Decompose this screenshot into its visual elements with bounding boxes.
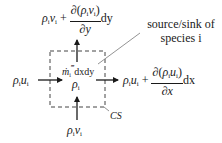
control-surface-label: CS: [110, 110, 122, 122]
area-element: dxdy: [74, 66, 94, 77]
species-subscript: i: [137, 80, 139, 88]
bottom-flux-expression: ρivi: [67, 124, 82, 140]
paren-close: ): [178, 65, 182, 79]
plus-sign: +: [60, 11, 67, 25]
partial-derivative-y: ∂(ρivi) ∂y: [70, 4, 101, 35]
species-subscript: i: [78, 84, 80, 92]
annotation-line-1: source/sink of: [140, 17, 222, 31]
species-subscript: i: [27, 80, 29, 88]
paren-close: ): [96, 3, 100, 17]
source-sink-annotation: source/sink of species i: [140, 17, 222, 45]
species-density-center: ρi: [72, 78, 80, 94]
annotation-leader-line: [98, 33, 140, 64]
fraction-numerator: ∂(ρiui): [151, 66, 183, 84]
species-subscript: i: [80, 130, 82, 138]
annotation-line-2: species i: [140, 31, 222, 45]
fraction-denominator: ∂x: [151, 84, 183, 97]
cs-leader-tick: [104, 107, 109, 111]
differential-dy: dy: [101, 11, 113, 25]
fraction-numerator: ∂(ρivi): [70, 4, 101, 22]
differential-dx: dx: [183, 73, 195, 87]
fraction-denominator: ∂y: [70, 22, 101, 35]
plus-sign: +: [142, 73, 149, 87]
species-subscript: i: [55, 18, 57, 26]
top-flux-expression: ρivi + ∂(ρivi) ∂y dy: [42, 4, 113, 35]
partial-derivative-x: ∂(ρiui) ∂x: [151, 66, 183, 97]
right-flux-expression: ρiui + ∂(ρiui) ∂x dx: [123, 66, 195, 97]
left-flux-expression: ρiui: [13, 74, 29, 90]
